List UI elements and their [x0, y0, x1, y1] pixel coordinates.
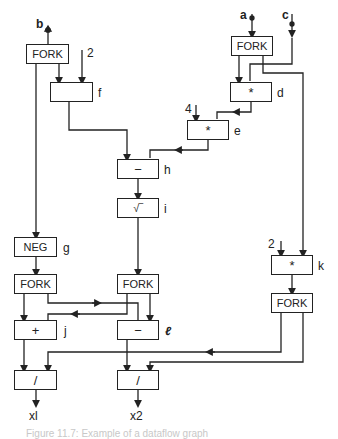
input-c-label: c — [282, 9, 289, 21]
neg-node: NEG — [14, 237, 57, 257]
l-label: ℓ — [165, 325, 171, 337]
div1-node: / — [14, 370, 57, 390]
div2-node: / — [117, 370, 159, 390]
h-label: h — [164, 164, 171, 176]
output-x1-label: xl — [29, 410, 38, 422]
h-node: − — [117, 159, 159, 179]
const-k: 2 — [268, 238, 275, 250]
i-node: √‾ — [117, 198, 159, 218]
k-node: * — [271, 255, 313, 275]
const-e: 4 — [185, 103, 192, 115]
d-node: * — [230, 82, 272, 102]
k-label: k — [318, 260, 324, 272]
fork-b-node: FORK — [26, 44, 69, 64]
f-label: f — [98, 87, 101, 99]
output-x2-label: x2 — [130, 410, 143, 422]
input-a-label: a — [240, 9, 247, 21]
fork-g-node: FORK — [14, 274, 57, 294]
const-f: 2 — [87, 47, 94, 59]
j-label: j — [64, 325, 67, 337]
f-node — [50, 82, 93, 102]
e-node: * — [187, 120, 229, 140]
fork-k-node: FORK — [271, 293, 313, 313]
j-node: + — [14, 320, 57, 340]
fork-a-node: FORK — [231, 36, 273, 56]
fork-i-node: FORK — [117, 274, 159, 294]
e-label: e — [234, 125, 241, 137]
figure-caption: Figure 11.7: Example of a dataflow graph — [26, 428, 208, 439]
i-label: i — [164, 203, 167, 215]
g-label: g — [63, 242, 70, 254]
l-node: − — [117, 320, 159, 340]
d-label: d — [277, 87, 284, 99]
input-b-label: b — [36, 18, 43, 30]
